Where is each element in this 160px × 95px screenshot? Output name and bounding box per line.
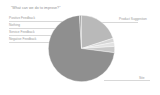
slice-label-nothing: Nothing	[9, 24, 20, 27]
slice-label-service-feedback: Service Feedback	[9, 31, 35, 34]
pie-slice-group	[48, 15, 114, 81]
slice-label-site: Site	[139, 77, 145, 80]
leader-line-negative-feedback	[9, 42, 51, 43]
chart-title: "What can we do to improve?"	[11, 6, 61, 10]
slice-label-negative-feedback: Negative Feedback	[9, 38, 36, 41]
pie-svg	[48, 15, 115, 82]
pie-chart-card: "What can we do to improve?" Positive Fe…	[0, 0, 160, 95]
slice-label-positive-feedback: Positive Feedback	[9, 17, 35, 20]
pie-plot-area	[48, 15, 115, 82]
slice-label-product-suggestion: Product Suggestion	[119, 18, 147, 21]
